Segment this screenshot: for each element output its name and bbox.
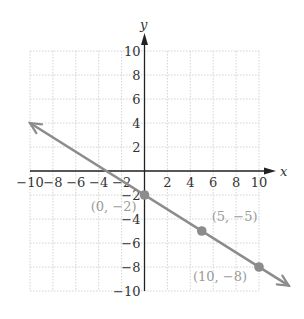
x-tick-label: 10 bbox=[251, 175, 268, 190]
y-tick-label: 10 bbox=[124, 44, 141, 59]
coordinate-plane: x y −10−8−6−4−2246810108642−2−4−6−8−10 (… bbox=[0, 0, 304, 319]
point-label: (0, −2) bbox=[91, 199, 137, 214]
y-tick-label: −10 bbox=[113, 284, 140, 299]
y-tick-label: −4 bbox=[121, 212, 140, 227]
axes: x y bbox=[30, 17, 288, 291]
point-label: (10, −8) bbox=[193, 269, 247, 284]
x-tick-label: −6 bbox=[66, 175, 85, 190]
x-tick-label: 6 bbox=[209, 175, 217, 190]
data-point bbox=[197, 226, 207, 236]
y-axis-arrow-icon bbox=[141, 33, 148, 45]
point-label: (5, −5) bbox=[212, 209, 258, 224]
x-axis-arrow-icon bbox=[264, 168, 276, 175]
x-tick-label: 4 bbox=[186, 175, 194, 190]
x-tick-label: −8 bbox=[43, 175, 62, 190]
line-series bbox=[30, 123, 289, 286]
y-tick-label: −6 bbox=[121, 236, 140, 251]
y-tick-label: 8 bbox=[132, 68, 140, 83]
x-tick-label: 8 bbox=[232, 175, 240, 190]
x-tick-label: −10 bbox=[16, 175, 43, 190]
data-points: (0, −2)(5, −5)(10, −8) bbox=[91, 190, 264, 284]
y-axis-label: y bbox=[139, 17, 148, 32]
x-axis-label: x bbox=[280, 164, 288, 179]
y-tick-label: −8 bbox=[121, 260, 140, 275]
data-point bbox=[140, 190, 150, 200]
x-tick-label: 2 bbox=[163, 175, 171, 190]
y-tick-label: 4 bbox=[132, 116, 140, 131]
y-tick-label: 2 bbox=[132, 140, 140, 155]
y-tick-label: 6 bbox=[132, 92, 140, 107]
x-tick-label: −4 bbox=[89, 175, 108, 190]
line-graph bbox=[30, 123, 289, 286]
data-point bbox=[254, 262, 264, 272]
